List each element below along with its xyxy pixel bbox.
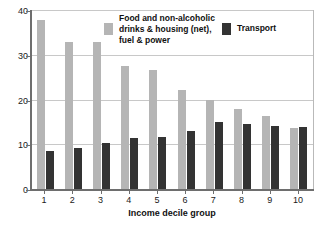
x-axis-tick-label: 2 [58, 195, 86, 205]
x-axis-tick-label: 7 [199, 195, 227, 205]
x-axis-tick-mark [101, 191, 102, 194]
bar-transport-decile-5 [158, 137, 166, 190]
x-axis-tick-label: 5 [143, 195, 171, 205]
x-axis-tick-label: 6 [171, 195, 199, 205]
bar-group [59, 11, 87, 190]
y-axis-line [30, 10, 32, 191]
bar-transport-decile-9 [271, 126, 279, 190]
legend-item-transport: Transport [222, 23, 276, 35]
y-axis-tick-label: 30 [2, 52, 28, 61]
bar-group [31, 11, 59, 190]
y-axis-tick-mark [26, 56, 30, 57]
y-axis-tick-mark [26, 101, 30, 102]
bar-transport-decile-7 [215, 122, 223, 190]
x-axis-title: Income decile group [30, 208, 314, 218]
y-axis-tick-label: 0 [2, 186, 28, 195]
x-axis-tick-label: 1 [30, 195, 58, 205]
legend-swatch-icon-transport [222, 23, 231, 35]
bar-transport-decile-2 [74, 148, 82, 190]
bar-chart: 010203040 12345678910 Income decile grou… [0, 0, 323, 226]
x-axis-tick-label: 8 [227, 195, 255, 205]
bar-transport-decile-6 [187, 131, 195, 190]
y-axis: 010203040 [0, 10, 28, 191]
bar-transport-decile-10 [299, 127, 307, 190]
y-axis-tick-label: 20 [2, 97, 28, 106]
bar-food-housing-fuel-power-decile-8 [234, 109, 242, 190]
bar-food-housing-fuel-power-decile-6 [178, 90, 186, 190]
bar-transport-decile-1 [46, 151, 54, 190]
bar-food-housing-fuel-power-decile-1 [37, 20, 45, 190]
x-axis-tick-mark [185, 191, 186, 194]
legend-label-food-housing-fuel-power: Food and non-alcoholic drinks & housing … [119, 13, 215, 46]
x-axis-tick-mark [72, 191, 73, 194]
legend-swatch-icon-food-housing-fuel-power [104, 23, 113, 35]
x-axis-tick-mark [270, 191, 271, 194]
y-axis-tick-label: 40 [2, 7, 28, 16]
bar-transport-decile-8 [243, 124, 251, 190]
bar-food-housing-fuel-power-decile-3 [93, 42, 101, 190]
x-axis-tick-mark [242, 191, 243, 194]
y-axis-tick-mark [26, 11, 30, 12]
bar-food-housing-fuel-power-decile-4 [121, 66, 129, 190]
x-axis-tick-label: 9 [256, 195, 284, 205]
chart-legend: Food and non-alcoholic drinks & housing … [104, 13, 309, 53]
bar-food-housing-fuel-power-decile-7 [206, 100, 214, 190]
x-axis-tick-mark [298, 191, 299, 194]
y-axis-tick-label: 10 [2, 141, 28, 150]
legend-item-food-housing-fuel-power: Food and non-alcoholic drinks & housing … [104, 13, 215, 46]
x-axis-tick-label: 4 [115, 195, 143, 205]
x-axis-tick-label: 3 [86, 195, 114, 205]
x-axis-tick-mark [44, 191, 45, 194]
legend-label-transport: Transport [237, 23, 276, 34]
bar-food-housing-fuel-power-decile-5 [149, 70, 157, 190]
x-axis-tick-label: 10 [284, 195, 312, 205]
bar-food-housing-fuel-power-decile-10 [290, 128, 298, 190]
x-axis: 12345678910 [30, 191, 314, 207]
x-axis-tick-mark [157, 191, 158, 194]
y-axis-tick-mark [26, 145, 30, 146]
x-axis-tick-mark [213, 191, 214, 194]
bar-transport-decile-3 [102, 143, 110, 190]
bar-food-housing-fuel-power-decile-9 [262, 116, 270, 190]
bar-food-housing-fuel-power-decile-2 [65, 42, 73, 190]
x-axis-tick-mark [129, 191, 130, 194]
bar-transport-decile-4 [130, 138, 138, 190]
